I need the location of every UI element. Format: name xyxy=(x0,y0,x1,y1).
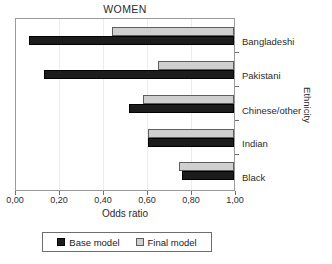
y-axis-title: Ethnicity xyxy=(302,87,313,123)
x-axis-title: Odds ratio xyxy=(15,208,235,219)
bar-base-indian[interactable] xyxy=(148,138,234,147)
ytick-label-black: Black xyxy=(242,172,265,183)
xtick-label-0-00: 0,00 xyxy=(6,195,24,205)
bar-final-chinese-other[interactable] xyxy=(143,95,234,104)
legend-swatch-base-model-icon xyxy=(57,238,65,246)
xtick-label-0-80: 0,80 xyxy=(182,195,200,205)
chart-legend: Base model Final model xyxy=(42,232,212,252)
plot-area xyxy=(15,18,235,191)
ytick-3 xyxy=(235,120,239,121)
bar-final-indian[interactable] xyxy=(148,129,234,138)
xtick-label-1-00: 1,00 xyxy=(226,195,244,205)
xtick-label-0-60: 0,60 xyxy=(138,195,156,205)
xtick-label-0-20: 0,20 xyxy=(50,195,68,205)
legend-label-final-model: Final model xyxy=(148,237,197,248)
bar-final-pakistani[interactable] xyxy=(158,61,234,70)
ytick-2 xyxy=(235,86,239,87)
chart-title: WOMEN xyxy=(15,3,235,15)
bar-final-bangladeshi[interactable] xyxy=(112,27,234,36)
xtick-label-0-40: 0,40 xyxy=(94,195,112,205)
ytick-1 xyxy=(235,52,239,53)
bar-base-chinese-other[interactable] xyxy=(129,104,234,113)
bar-base-pakistani[interactable] xyxy=(44,70,234,79)
ytick-label-chinese-other: Chinese/other xyxy=(242,105,301,116)
bar-final-black[interactable] xyxy=(179,162,234,171)
ytick-label-indian: Indian xyxy=(242,138,268,149)
legend-entry-base-model[interactable]: Base model xyxy=(57,237,119,248)
legend-label-base-model: Base model xyxy=(69,237,119,248)
bar-base-black[interactable] xyxy=(182,171,234,180)
ytick-label-pakistani: Pakistani xyxy=(242,70,281,81)
chart-figure: WOMEN xyxy=(0,0,332,264)
legend-entry-final-model[interactable]: Final model xyxy=(136,237,197,248)
ytick-4 xyxy=(235,154,239,155)
bar-base-bangladeshi[interactable] xyxy=(29,36,234,45)
legend-swatch-final-model-icon xyxy=(136,238,144,246)
ytick-label-bangladeshi: Bangladeshi xyxy=(242,36,294,47)
